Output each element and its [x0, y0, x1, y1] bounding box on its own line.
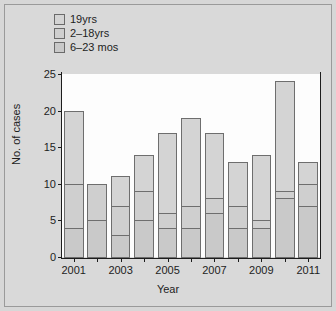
bar-segment-2009-0 — [252, 228, 272, 258]
legend-item-19yrs: 19yrs — [54, 13, 118, 26]
bar-segment-2003-1 — [111, 206, 131, 236]
x-tick-label: 2009 — [249, 264, 273, 276]
y-axis-title: No. of cases — [10, 104, 22, 165]
y-tick-label: 20 — [44, 105, 56, 117]
bar-segment-2008-2 — [228, 162, 248, 207]
x-axis-line — [61, 258, 321, 259]
bar-2002 — [87, 74, 107, 257]
bar-segment-2004-1 — [134, 191, 154, 221]
bar-2007 — [205, 74, 225, 257]
y-tick-label: 25 — [44, 68, 56, 80]
x-tick-label: 2007 — [202, 264, 226, 276]
legend-label-2-18yrs: 2–18yrs — [70, 28, 109, 39]
bar-segment-2004-2 — [134, 155, 154, 193]
bar-2006 — [181, 74, 201, 257]
bar-segment-2001-1 — [64, 184, 84, 229]
x-tick-label: 2001 — [61, 264, 85, 276]
x-tick-label: 2011 — [296, 264, 320, 276]
bar-segment-2007-1 — [205, 198, 225, 214]
bar-2008 — [228, 74, 248, 257]
bar-segment-2011-0 — [298, 206, 318, 258]
bar-segment-2007-0 — [205, 213, 225, 258]
bar-2003 — [111, 74, 131, 257]
bar-2004 — [134, 74, 154, 257]
bar-2010 — [275, 74, 295, 257]
bar-segment-2009-1 — [252, 220, 272, 228]
y-tick-label: 10 — [44, 178, 56, 190]
bar-segment-2002-0 — [87, 220, 107, 258]
chart-figure: 19yrs 2–18yrs 6–23 mos 0510152025 200120… — [0, 0, 336, 311]
y-tick-label: 15 — [44, 141, 56, 153]
legend-label-19yrs: 19yrs — [70, 14, 97, 25]
y-tick-label: 0 — [50, 251, 56, 263]
bar-segment-2006-2 — [181, 118, 201, 207]
bar-2005 — [158, 74, 178, 257]
y-axis-line — [61, 72, 62, 259]
bar-segment-2003-0 — [111, 235, 131, 258]
bar-segment-2009-2 — [252, 155, 272, 222]
bar-segment-2006-1 — [181, 206, 201, 229]
bar-segment-2004-0 — [134, 220, 154, 258]
plot-region: 0510152025 200120032005200720092011 — [62, 74, 320, 257]
bar-segment-2011-1 — [298, 184, 318, 207]
legend-swatch-2-18yrs — [54, 28, 65, 39]
legend-swatch-6-23mos — [54, 42, 65, 53]
bar-segment-2005-2 — [158, 133, 178, 215]
bar-2009 — [252, 74, 272, 257]
bar-segment-2001-2 — [64, 111, 84, 185]
bar-2001 — [64, 74, 84, 257]
bar-segment-2003-2 — [111, 176, 131, 206]
plot-right-border — [320, 72, 321, 259]
y-tick-label: 5 — [50, 214, 56, 226]
x-axis-title: Year — [0, 283, 336, 295]
bar-segment-2010-2 — [275, 81, 295, 192]
bar-segment-2008-1 — [228, 206, 248, 229]
bar-2011 — [298, 74, 318, 257]
legend-item-2-18yrs: 2–18yrs — [54, 27, 118, 40]
bar-segment-2002-1 — [87, 184, 107, 222]
bar-segment-2001-0 — [64, 228, 84, 258]
chart-legend: 19yrs 2–18yrs 6–23 mos — [54, 13, 118, 54]
bar-segment-2008-0 — [228, 228, 248, 258]
bar-segment-2010-0 — [275, 198, 295, 258]
bar-segment-2011-2 — [298, 162, 318, 185]
bar-segment-2005-0 — [158, 228, 178, 258]
legend-item-6-23mos: 6–23 mos — [54, 41, 118, 54]
x-tick-label: 2005 — [155, 264, 179, 276]
bar-segment-2007-2 — [205, 133, 225, 200]
bar-segment-2010-1 — [275, 191, 295, 199]
x-tick-label: 2003 — [108, 264, 132, 276]
legend-label-6-23mos: 6–23 mos — [70, 42, 118, 53]
bar-segment-2006-0 — [181, 228, 201, 258]
bar-segment-2005-1 — [158, 213, 178, 229]
legend-swatch-19yrs — [54, 14, 65, 25]
